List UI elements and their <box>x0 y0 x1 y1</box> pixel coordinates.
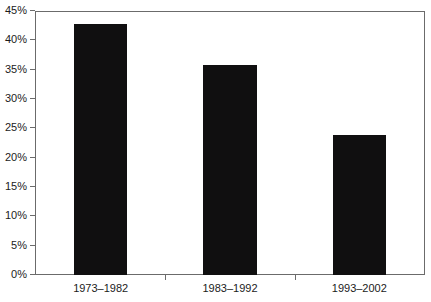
y-axis-tick-mark <box>30 69 35 70</box>
y-axis-tick-mark <box>30 39 35 40</box>
y-axis-tick-label: 15% <box>5 179 27 194</box>
y-axis-tick-mark <box>30 245 35 246</box>
y-axis-tick-mark <box>30 186 35 187</box>
y-axis-tick-label: 30% <box>5 91 27 106</box>
y-axis-tick-label: 25% <box>5 120 27 135</box>
x-axis-category-label: 1993–2002 <box>295 281 424 296</box>
y-axis-tick-mark <box>30 157 35 158</box>
y-axis-tick-label: 0% <box>11 267 27 282</box>
bar <box>74 24 127 275</box>
y-axis-tick-mark <box>30 98 35 99</box>
x-axis-tick-mark <box>165 275 166 280</box>
y-axis-tick-label: 45% <box>5 3 27 18</box>
bar <box>203 65 256 275</box>
x-axis-category-label: 1983–1992 <box>165 281 294 296</box>
y-axis-tick-mark <box>30 274 35 275</box>
y-axis-tick-label: 40% <box>5 32 27 47</box>
x-axis-tick-mark <box>295 275 296 280</box>
x-axis-category-label: 1973–1982 <box>36 281 165 296</box>
bar <box>333 135 386 275</box>
y-axis-tick-mark <box>30 10 35 11</box>
y-axis-tick-label: 5% <box>11 238 27 253</box>
y-axis-tick-label: 10% <box>5 208 27 223</box>
y-axis-tick-label: 35% <box>5 62 27 77</box>
y-axis-tick-label: 20% <box>5 150 27 165</box>
y-axis-tick-mark <box>30 127 35 128</box>
y-axis-tick-mark <box>30 215 35 216</box>
bar-chart: 0%5%10%15%20%25%30%35%40%45% 1973–198219… <box>0 0 431 302</box>
bars-layer <box>36 12 424 275</box>
